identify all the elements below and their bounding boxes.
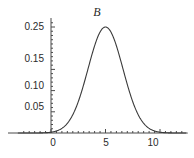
x-tick-label-10: 10	[143, 137, 163, 148]
axes-group	[8, 18, 186, 133]
y-tick-label-0-05: 0.05	[6, 101, 44, 112]
y-tick-label-0-15: 0.15	[6, 53, 44, 64]
x-tick-label-5: 5	[96, 137, 116, 148]
y-axis-ticks	[51, 23, 55, 129]
y-tick-label-0-10: 0.10	[6, 80, 44, 91]
chart-container: B 0.25 0.15 0.10 0.05 0 5 10	[0, 0, 194, 158]
x-tick-label-0: 0	[43, 137, 63, 148]
y-tick-label-0-25: 0.25	[6, 21, 44, 32]
